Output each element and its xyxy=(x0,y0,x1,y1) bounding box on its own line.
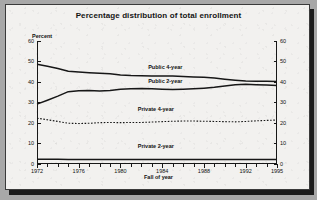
series-annotation: Public 4-year xyxy=(146,64,184,70)
series-lines xyxy=(6,5,311,191)
series-annotation: Public 2-year xyxy=(146,78,184,84)
series-line xyxy=(37,118,277,123)
series-annotation: Private 2-year xyxy=(136,143,176,149)
figure-canvas: Percentage distribution of total enrollm… xyxy=(0,0,317,200)
series-line xyxy=(37,84,277,104)
chart-card: Percentage distribution of total enrollm… xyxy=(5,4,310,190)
series-annotation: Private 4-year xyxy=(136,106,176,112)
